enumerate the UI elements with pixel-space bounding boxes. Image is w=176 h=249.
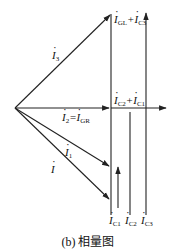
label-ic2-plus-ic1: IC2+IC1: [114, 95, 145, 108]
phasor-i3-arrow: [15, 15, 110, 108]
label-igl-plus-ic3: IGL+IC3: [114, 14, 146, 27]
label-i: I: [51, 164, 55, 175]
label-ic3: IC3: [141, 215, 153, 228]
label-i3: I3: [52, 50, 59, 63]
label-ic2: IC2: [125, 215, 137, 228]
figure-caption: (b) 相量图: [0, 232, 176, 249]
label-i1: I1: [65, 147, 72, 160]
label-ic1: IC1: [109, 215, 121, 228]
label-i2-equals-igr: I2=IGR: [62, 112, 90, 125]
